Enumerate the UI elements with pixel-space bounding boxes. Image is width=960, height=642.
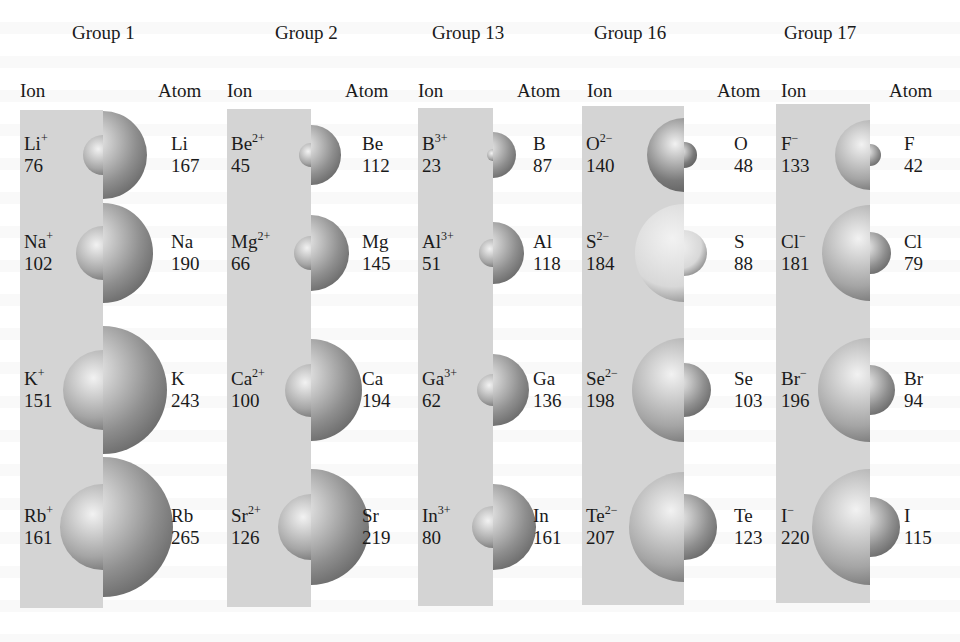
ion-label: O2−140	[586, 133, 615, 177]
ion-charge: 3+	[435, 131, 448, 145]
ion-radius-value: 196	[781, 390, 810, 411]
atom-sphere-icon	[684, 142, 697, 167]
atom-radius-value: 136	[533, 390, 562, 411]
atom-label: I115	[904, 505, 932, 549]
atom-label: Li167	[171, 133, 200, 177]
ion-radius-value: 198	[586, 390, 615, 411]
atom-label: F42	[904, 133, 923, 177]
atom-label: Rb265	[171, 505, 200, 549]
ion-sphere-icon	[835, 120, 870, 190]
group-title: Group 1	[72, 22, 135, 44]
ion-symbol: O	[586, 133, 600, 154]
atom-sphere-icon	[493, 132, 516, 178]
atom-symbol: Sr	[362, 505, 379, 526]
ion-symbol: S	[586, 231, 597, 252]
ion-label: B3+23	[422, 133, 447, 177]
ion-radius-value: 207	[586, 527, 615, 548]
ion-label: Mg2+66	[231, 231, 270, 275]
atom-label: Mg145	[362, 231, 391, 275]
ion-sphere-icon	[285, 364, 312, 417]
ion-symbol: F	[781, 133, 792, 154]
ion-charge: 2+	[248, 503, 261, 517]
ion-charge: 2+	[252, 366, 265, 380]
group-title: Group 17	[784, 22, 856, 44]
atom-symbol: I	[904, 505, 910, 526]
atom-radius-value: 194	[362, 390, 391, 411]
atom-column-header: Atom	[345, 80, 388, 102]
atom-sphere-icon	[311, 215, 349, 292]
atom-sphere-icon	[103, 326, 167, 455]
ion-sphere-icon	[299, 143, 311, 167]
ion-sphere-icon	[818, 338, 870, 442]
ion-symbol: Ga	[422, 368, 444, 389]
ion-radius-value: 151	[24, 390, 53, 411]
ion-sphere-icon	[472, 506, 493, 548]
ion-sphere-icon	[479, 239, 493, 266]
ion-sphere-icon	[63, 350, 103, 430]
ion-symbol: Al	[422, 231, 441, 252]
atom-label: Ca194	[362, 368, 391, 412]
ion-symbol: In	[422, 505, 438, 526]
ion-radius-value: 66	[231, 253, 250, 274]
ion-sphere-icon	[635, 204, 684, 302]
ion-charge: 3+	[441, 229, 454, 243]
ion-column-header: Ion	[418, 80, 443, 102]
ion-charge: 2−	[597, 229, 610, 243]
atom-label: Be112	[362, 133, 390, 177]
atom-radius-value: 123	[734, 527, 763, 548]
atom-symbol: In	[533, 505, 549, 526]
atom-symbol: Ga	[533, 368, 555, 389]
ion-symbol: Te	[586, 505, 605, 526]
ion-label: K+151	[24, 368, 53, 412]
atom-label: Te123	[734, 505, 763, 549]
atom-sphere-icon	[103, 111, 147, 200]
atom-column-header: Atom	[889, 80, 932, 102]
ion-sphere-icon	[477, 374, 493, 407]
atom-radius-value: 243	[171, 390, 200, 411]
ion-radius-value: 140	[586, 155, 615, 176]
ion-radius-value: 184	[586, 253, 615, 274]
ion-sphere-icon	[76, 226, 103, 280]
atom-column-header: Atom	[158, 80, 201, 102]
ion-charge: 2−	[600, 131, 613, 145]
ion-radius-value: 23	[422, 155, 441, 176]
atom-symbol: Mg	[362, 231, 388, 252]
atom-symbol: Cl	[904, 231, 922, 252]
atom-label: B87	[533, 133, 552, 177]
ion-label: Br−196	[781, 368, 810, 412]
group-title: Group 13	[432, 22, 504, 44]
ion-label: Se2−198	[586, 368, 618, 412]
atom-label: K243	[171, 368, 200, 412]
atom-label: O48	[734, 133, 753, 177]
ion-label: Sr2+126	[231, 505, 261, 549]
atom-radius-value: 94	[904, 390, 923, 411]
ion-label: In3+80	[422, 505, 451, 549]
ion-symbol: Rb	[24, 505, 46, 526]
atom-symbol: Br	[904, 368, 923, 389]
ion-charge: 3+	[444, 366, 457, 380]
ion-radius-value: 220	[781, 527, 810, 548]
ion-label: Li+76	[24, 133, 48, 177]
atom-sphere-icon	[311, 339, 362, 442]
atom-radius-value: 219	[362, 527, 391, 548]
atom-radius-value: 118	[533, 253, 561, 274]
ion-radius-value: 45	[231, 155, 250, 176]
atom-symbol: K	[171, 368, 185, 389]
atom-radius-value: 167	[171, 155, 200, 176]
atom-radius-value: 42	[904, 155, 923, 176]
atom-label: Cl79	[904, 231, 923, 275]
ion-symbol: Na	[24, 231, 46, 252]
ion-charge: −	[800, 366, 807, 380]
atom-sphere-icon	[311, 125, 341, 184]
atom-label: Sr219	[362, 505, 391, 549]
ion-symbol: Br	[781, 368, 800, 389]
ion-radius-value: 161	[24, 527, 53, 548]
ion-symbol: Mg	[231, 231, 257, 252]
ion-charge: 2−	[605, 503, 618, 517]
group-title: Group 2	[275, 22, 338, 44]
ion-charge: +	[41, 131, 48, 145]
ion-sphere-icon	[83, 135, 103, 175]
ion-label: Te2−207	[586, 505, 618, 549]
ion-sphere-icon	[822, 205, 870, 301]
atom-sphere-icon	[493, 354, 529, 426]
